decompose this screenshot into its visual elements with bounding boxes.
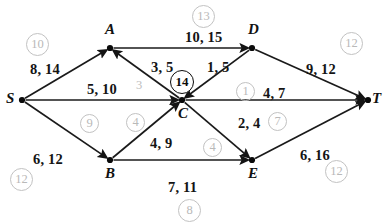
annotation-12-11: 12 — [325, 160, 348, 183]
node-a-dot — [107, 45, 113, 51]
highlight-annotation-14-3: 14 — [170, 70, 194, 94]
annotation-4-8: 4 — [203, 138, 222, 157]
node-label-s: S — [6, 91, 14, 106]
node-label-b: B — [105, 166, 115, 181]
edge-label-e-t: 6, 16 — [300, 148, 330, 163]
node-label-c: C — [178, 106, 188, 121]
loose-digit-3: 3 — [136, 78, 142, 93]
edge-label-s-c: 5, 10 — [87, 82, 117, 97]
node-t-dot — [365, 97, 371, 103]
edge-label-c-a: 3, 5 — [151, 60, 174, 75]
annotation-12-2: 12 — [340, 32, 363, 55]
node-label-t: T — [372, 91, 381, 106]
edge-label-d-t: 9, 12 — [306, 62, 336, 77]
annotation-4-6: 4 — [126, 113, 145, 132]
edge-label-d-c: 1, 5 — [207, 60, 230, 75]
node-b-dot — [107, 157, 113, 163]
annotation-7-7: 7 — [268, 112, 287, 131]
node-s-dot — [19, 97, 25, 103]
edge-label-b-c: 4, 9 — [150, 136, 173, 151]
edge-label-a-d: 10, 15 — [185, 30, 222, 45]
annotation-8-10: 8 — [178, 199, 201, 222]
node-e-dot — [249, 157, 255, 163]
node-label-d: D — [248, 22, 259, 37]
network-flow-diagram: 8, 145, 106, 1210, 153, 51, 59, 124, 74,… — [0, 0, 390, 223]
edge-label-s-b: 6, 12 — [33, 152, 63, 167]
annotation-13-1: 13 — [192, 5, 215, 28]
edge-label-c-e: 2, 4 — [238, 116, 261, 131]
node-c-dot — [179, 97, 185, 103]
node-d-dot — [249, 45, 255, 51]
annotation-1-4: 1 — [236, 82, 255, 101]
node-label-a: A — [105, 22, 115, 37]
edge-label-s-a: 8, 14 — [30, 62, 60, 77]
node-label-e: E — [248, 166, 258, 181]
annotation-12-9: 12 — [10, 168, 33, 191]
annotation-9-5: 9 — [80, 114, 99, 133]
edge-label-c-t: 4, 7 — [263, 86, 286, 101]
annotation-10-0: 10 — [26, 33, 49, 56]
edge-label-b-e: 7, 11 — [168, 180, 197, 195]
